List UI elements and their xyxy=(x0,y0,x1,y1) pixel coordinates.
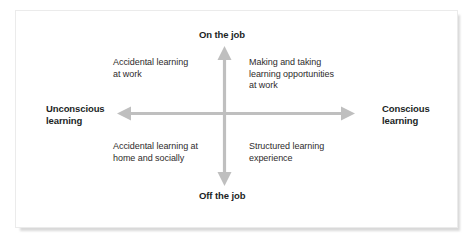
diagram-canvas: On the job Off the job Unconscious learn… xyxy=(0,0,475,245)
quadrant-text-top-left: Accidental learning at work xyxy=(113,57,241,80)
horizontal-axis-arrow xyxy=(117,107,355,121)
quadrant-text-bottom-left: Accidental learning at home and socially xyxy=(113,141,245,164)
axis-label-right: Conscious learning xyxy=(382,103,467,127)
quadrant-text-bottom-right: Structured learning experience xyxy=(249,141,377,164)
quadrant-text-top-right: Making and taking learning opportunities… xyxy=(249,57,379,92)
axis-label-top: On the job xyxy=(199,29,319,41)
axis-label-bottom: Off the job xyxy=(199,190,319,202)
axis-label-left: Unconscious learning xyxy=(46,103,126,127)
